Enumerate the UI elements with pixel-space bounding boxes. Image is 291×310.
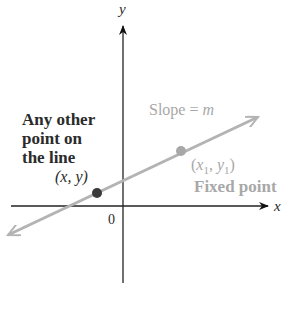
x-axis: x	[11, 198, 281, 214]
y-axis-label: y	[117, 1, 126, 17]
fixed-point-coord-label: (x1, y1)	[191, 156, 235, 176]
fixed-point-marker	[176, 146, 186, 156]
diagram-canvas: y x 0 Slope = m Any other point on the l…	[0, 0, 291, 310]
any-point-marker	[92, 188, 102, 198]
fixed-point: (x1, y1) Fixed point	[176, 146, 277, 196]
any-point-coord-label: (x, y)	[55, 168, 88, 186]
fixed-point-caption: Fixed point	[194, 177, 277, 196]
x-axis-label: x	[273, 198, 281, 214]
slope-label: Slope = m	[149, 101, 214, 119]
slope-label-var: m	[202, 101, 214, 118]
any-point-caption-line-3: the line	[22, 148, 76, 167]
any-point-caption: Any other point on the line	[22, 110, 99, 167]
any-point: Any other point on the line (x, y)	[22, 110, 102, 198]
origin-label: 0	[108, 212, 115, 227]
any-point-caption-line-2: point on	[22, 129, 83, 148]
slope-label-prefix: Slope =	[149, 101, 202, 119]
any-point-caption-line-1: Any other	[22, 110, 96, 129]
y-axis: y	[117, 1, 126, 283]
